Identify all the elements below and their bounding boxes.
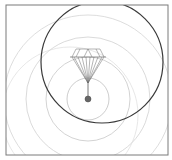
pendulum-diamond-drawing <box>0 0 172 160</box>
offset-light-circle <box>2 47 138 160</box>
dark-circle <box>41 1 163 123</box>
pendulum-ball <box>85 96 91 102</box>
